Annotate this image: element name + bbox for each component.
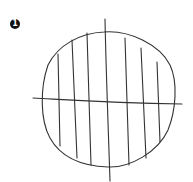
vertical-line-2 <box>72 40 77 158</box>
circle-diagram <box>0 0 193 182</box>
vertical-axis <box>105 19 110 181</box>
vertical-line-6 <box>157 62 160 142</box>
vertical-line-4 <box>125 38 129 165</box>
vertical-line-3 <box>87 33 91 165</box>
